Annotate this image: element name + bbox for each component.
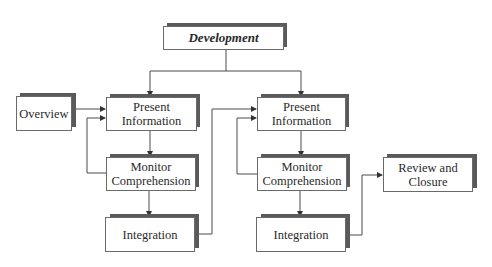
left-integration-label: Integration: [123, 228, 178, 242]
left-monitor-label-line1: Monitor: [131, 160, 172, 174]
right-present-label-line2: Information: [272, 114, 332, 128]
arrow-integration-to-review: [349, 175, 382, 235]
arrow-left-monitor-feedback: [87, 118, 106, 173]
right-present-label-line1: Present: [283, 100, 320, 114]
left-present-information-node: Present Information: [106, 97, 197, 131]
left-present-label-line2: Information: [122, 114, 182, 128]
review-label-line2: Closure: [409, 175, 448, 189]
arrow-right-monitor-feedback: [237, 118, 257, 174]
left-integration-node: Integration: [105, 217, 195, 252]
right-monitor-comprehension-node: Monitor Comprehension: [257, 157, 347, 191]
overview-label: Overview: [19, 107, 68, 121]
arrow-left-integration-to-right-present: [199, 109, 256, 234]
right-integration-node: Integration: [256, 217, 346, 252]
development-label: Development: [188, 31, 258, 45]
review-closure-node: Review and Closure: [383, 157, 473, 192]
development-node: Development: [163, 26, 284, 50]
overview-node: Overview: [16, 96, 72, 131]
right-monitor-label-line1: Monitor: [282, 160, 323, 174]
review-label-line1: Review and: [398, 161, 457, 175]
right-present-information-node: Present Information: [257, 97, 346, 131]
left-monitor-label-line2: Comprehension: [111, 174, 190, 188]
left-present-label-line1: Present: [133, 100, 170, 114]
right-monitor-label-line2: Comprehension: [262, 174, 341, 188]
left-monitor-comprehension-node: Monitor Comprehension: [106, 157, 196, 191]
right-integration-label: Integration: [274, 228, 329, 242]
